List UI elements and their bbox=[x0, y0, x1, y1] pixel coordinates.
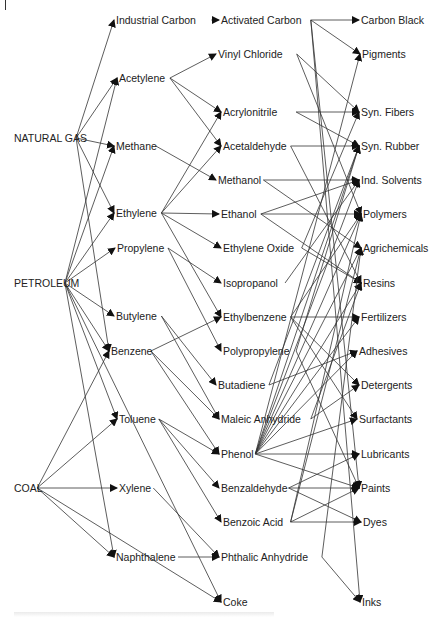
edges-layer bbox=[37, 20, 361, 602]
edge-ethylbenzene-to-polymers bbox=[291, 214, 361, 317]
node-acetaldehyde: Acetaldehyde bbox=[223, 140, 287, 152]
edge-xylene-to-phthalic-anhydride bbox=[153, 488, 219, 557]
node-paints: Paints bbox=[361, 482, 390, 494]
node-industrial-carbon: Industrial Carbon bbox=[116, 14, 196, 26]
node-petroleum: PETROLEUM bbox=[14, 277, 79, 289]
node-syn-rubber: Syn. Rubber bbox=[361, 140, 420, 152]
node-phthalic-anhydride: Phthalic Anhydride bbox=[221, 551, 308, 563]
edge-acetylene-to-acetaldehyde bbox=[170, 78, 221, 146]
node-polymers: Polymers bbox=[363, 208, 407, 220]
edge-phthalic-anhydride-to-inks bbox=[322, 557, 360, 602]
node-acrylonitrile: Acrylonitrile bbox=[223, 106, 277, 118]
node-ethylbenzene: Ethylbenzene bbox=[223, 311, 287, 323]
edge-propylene-to-isopropanol bbox=[168, 248, 221, 283]
node-ethylene-oxide: Ethylene Oxide bbox=[223, 242, 294, 254]
edge-ethylene-to-ethanol bbox=[161, 213, 219, 214]
edge-acetylene-to-acrylonitrile bbox=[170, 78, 221, 112]
node-benzene: Benzene bbox=[111, 345, 153, 357]
node-inks: Inks bbox=[362, 596, 381, 608]
edge-coal-to-naphthalene bbox=[37, 488, 114, 557]
node-carbon-black: Carbon Black bbox=[361, 14, 425, 26]
node-benzaldehyde: Benzaldehyde bbox=[221, 482, 288, 494]
node-coke: Coke bbox=[223, 596, 248, 608]
node-ethanol: Ethanol bbox=[221, 208, 257, 220]
node-butadiene: Butadiene bbox=[218, 379, 265, 391]
edge-butylene-to-butadiene bbox=[161, 316, 216, 385]
nodes-layer: NATURAL GASPETROLEUMCOALIndustrial Carbo… bbox=[14, 14, 428, 608]
node-dyes: Dyes bbox=[363, 516, 387, 528]
node-maleic-anhydride: Maleic Anhydride bbox=[221, 413, 301, 425]
node-agrichemicals: Agrichemicals bbox=[363, 242, 428, 254]
edge-acetylene-to-vinyl-chloride bbox=[170, 54, 216, 78]
node-methanol: Methanol bbox=[218, 174, 261, 186]
node-xylene: Xylene bbox=[119, 482, 151, 494]
node-lubricants: Lubricants bbox=[361, 448, 409, 460]
node-propylene: Propylene bbox=[117, 242, 164, 254]
edge-ethylene-to-ethylbenzene bbox=[161, 213, 221, 317]
node-naphthalene: Naphthalene bbox=[116, 551, 176, 563]
edge-vinyl-chloride-to-syn-fibers bbox=[297, 54, 359, 112]
edge-petroleum-to-methane bbox=[65, 146, 114, 283]
edge-toluene-to-phenol bbox=[159, 419, 219, 454]
node-natural-gas: NATURAL GAS bbox=[14, 132, 87, 144]
edge-butylene-to-maleic-anhydride bbox=[161, 316, 219, 419]
edge-ethylene-to-acetaldehyde bbox=[161, 146, 221, 213]
edge-benzene-to-maleic-anhydride bbox=[151, 351, 219, 419]
figure-caption-truncated bbox=[14, 612, 274, 617]
edge-petroleum-to-naphthalene bbox=[65, 283, 114, 557]
node-fertilizers: Fertilizers bbox=[361, 311, 407, 323]
edge-maleic-anhydride-to-resins bbox=[311, 283, 361, 419]
node-coal: COAL bbox=[14, 482, 43, 494]
node-toluene: Toluene bbox=[119, 413, 156, 425]
edge-benzoic-acid-to-agrichemicals bbox=[291, 248, 361, 522]
edge-petroleum-to-toluene bbox=[65, 283, 117, 419]
edge-ethylene-to-acrylonitrile bbox=[161, 112, 221, 213]
edge-natural-gas-to-acetylene bbox=[76, 78, 117, 138]
node-acetylene: Acetylene bbox=[119, 72, 165, 84]
node-phenol: Phenol bbox=[221, 448, 254, 460]
node-surfactants: Surfactants bbox=[359, 413, 412, 425]
edge-coal-to-toluene bbox=[37, 419, 117, 488]
node-activated-carbon: Activated Carbon bbox=[221, 14, 302, 26]
node-pigments: Pigments bbox=[362, 48, 406, 60]
process-flow-diagram: NATURAL GASPETROLEUMCOALIndustrial Carbo… bbox=[0, 0, 435, 617]
node-ind-solvents: Ind. Solvents bbox=[361, 174, 422, 186]
node-adhesives: Adhesives bbox=[359, 345, 407, 357]
node-isopropanol: Isopropanol bbox=[223, 277, 278, 289]
node-ethylene: Ethylene bbox=[116, 207, 157, 219]
node-polypropylene: Polypropylene bbox=[223, 345, 290, 357]
node-methane: Methane bbox=[116, 140, 157, 152]
edge-benzoic-acid-to-paints bbox=[291, 488, 359, 522]
node-vinyl-chloride: Vinyl Chloride bbox=[218, 48, 283, 60]
edge-ethylene-to-ethylene-oxide bbox=[161, 213, 221, 248]
edge-acrylonitrile-to-syn-rubber bbox=[296, 112, 359, 146]
edge-propylene-to-polypropylene bbox=[168, 248, 221, 351]
node-syn-fibers: Syn. Fibers bbox=[361, 106, 414, 118]
edge-phthalic-anhydride-to-agrichemicals bbox=[322, 248, 361, 557]
node-butylene: Butylene bbox=[116, 310, 157, 322]
edge-activated-carbon-to-pigments bbox=[311, 20, 360, 54]
edge-toluene-to-benzoic-acid bbox=[159, 419, 221, 522]
edge-benzene-to-ethylbenzene bbox=[151, 317, 221, 351]
edge-polypropylene-to-paints bbox=[296, 351, 359, 488]
node-detergents: Detergents bbox=[361, 379, 412, 391]
node-resins: Resins bbox=[363, 277, 395, 289]
node-benzoic-acid: Benzoic Acid bbox=[223, 516, 283, 528]
edge-methane-to-methanol bbox=[156, 146, 216, 180]
edge-natural-gas-to-industrial-carbon bbox=[76, 20, 114, 138]
edge-toluene-to-benzaldehyde bbox=[159, 419, 219, 488]
edge-benzene-to-phenol bbox=[151, 351, 219, 454]
